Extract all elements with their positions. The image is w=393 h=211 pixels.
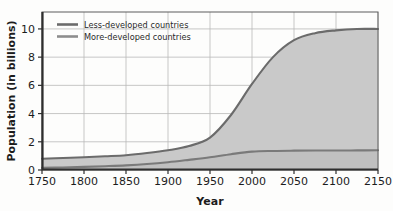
population-chart-figure: 175018001850190019502000205021002150 024… bbox=[0, 0, 393, 211]
y-tick-label: 10 bbox=[21, 23, 35, 36]
population-area-chart: 175018001850190019502000205021002150 024… bbox=[0, 0, 393, 211]
legend-label-less-developed: Less-developed countries bbox=[84, 20, 188, 30]
x-axis-tick-labels: 175018001850190019502000205021002150 bbox=[28, 175, 392, 188]
x-tick-label: 1800 bbox=[70, 175, 98, 188]
x-tick-label: 2150 bbox=[364, 175, 392, 188]
x-axis-title: Year bbox=[195, 195, 224, 208]
y-tick-label: 2 bbox=[28, 136, 35, 149]
legend-label-more-developed: More-developed countries bbox=[84, 32, 191, 42]
y-tick-label: 6 bbox=[28, 79, 35, 92]
y-axis-tick-labels: 0246810 bbox=[21, 23, 35, 177]
x-tick-label: 2050 bbox=[280, 175, 308, 188]
x-tick-label: 2000 bbox=[238, 175, 266, 188]
y-tick-label: 8 bbox=[28, 51, 35, 64]
x-tick-label: 1850 bbox=[112, 175, 140, 188]
x-tick-label: 2100 bbox=[322, 175, 350, 188]
x-tick-label: 1900 bbox=[154, 175, 182, 188]
x-axis-tick-marks bbox=[42, 170, 378, 174]
x-tick-label: 1950 bbox=[196, 175, 224, 188]
y-tick-label: 0 bbox=[28, 164, 35, 177]
y-tick-label: 4 bbox=[28, 108, 35, 121]
y-axis-title: Population (in billions) bbox=[5, 20, 18, 161]
